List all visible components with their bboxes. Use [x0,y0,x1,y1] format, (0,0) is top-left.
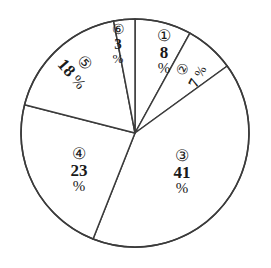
pie-slice-group [21,19,249,247]
pie-chart: ① 8 % ② 7 % ③ 41 % ④ 23 % ⑤ 18 % ⑥ 3 % [0,0,271,268]
pie-chart-svg [0,0,271,268]
